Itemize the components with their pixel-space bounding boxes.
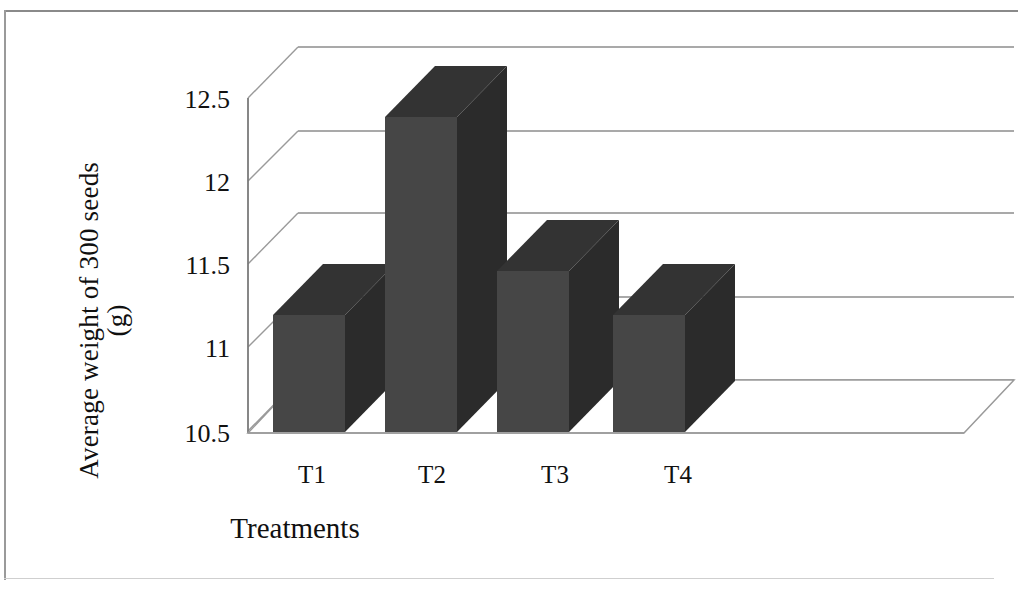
depth-connector-11.5 [248,213,298,264]
y-tick-label-12: 12 [120,168,230,198]
x-tick-label-t2: T2 [387,461,477,489]
y-tick-label-12.5: 12.5 [120,85,230,115]
depth-connector-12.5 [248,47,298,98]
y-tick-label-11.5: 11.5 [120,251,230,281]
bar-t3-front [497,271,569,432]
bar-t1-front [273,315,345,432]
bar-t4-front [613,315,685,432]
x-tick-label-t4: T4 [633,461,723,489]
bar-t2[interactable] [385,66,507,432]
y-tick-label-10.5: 10.5 [120,419,230,449]
chart-page: Average weight of 300 seeds (g) 12.5 12 … [0,0,1020,591]
x-tick-label-t3: T3 [510,461,600,489]
bar-t2-front [385,117,457,432]
x-axis-title: Treatments [155,512,435,545]
x-tick-label-t1: T1 [267,461,357,489]
y-tick-label-11: 11 [120,334,230,364]
depth-connector-12 [248,131,298,181]
